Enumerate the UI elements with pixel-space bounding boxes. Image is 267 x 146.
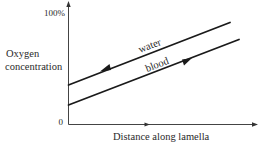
- water-flow-left-arrow-icon: [100, 64, 111, 72]
- y-axis-zero-tick: 0: [59, 117, 64, 127]
- blood-flow-right-arrow-icon: [182, 58, 192, 66]
- water-label: water: [137, 36, 163, 55]
- x-axis-label: Distance along lamella: [113, 131, 210, 142]
- y-axis-label-line1: Oxygen: [6, 48, 40, 59]
- countercurrent-exchange-diagram: 100% 0 Oxygen concentration Distance alo…: [0, 0, 267, 146]
- y-axis-arrow-icon: [66, 1, 70, 7]
- x-axis-mid-arrow-icon: [145, 123, 151, 127]
- x-axis-end-arrow-icon: [252, 122, 258, 126]
- y-axis-label-line2: concentration: [5, 61, 63, 72]
- y-axis-top-tick: 100%: [44, 8, 66, 18]
- water-line: [69, 23, 231, 86]
